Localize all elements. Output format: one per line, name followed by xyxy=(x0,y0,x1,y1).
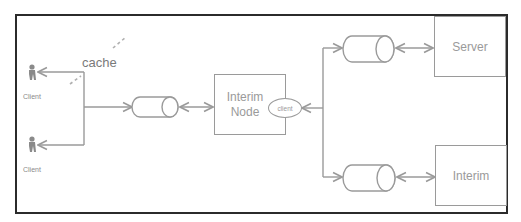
interim-node-client-oval: client xyxy=(268,98,302,118)
cache-dash-upper xyxy=(113,37,126,48)
cache-label: cache xyxy=(82,55,117,70)
interim-box: Interim xyxy=(435,145,507,206)
queue-cylinder-3 xyxy=(343,165,395,191)
client-label-bottom: Client xyxy=(23,166,41,173)
queue-cylinder-1 xyxy=(132,97,178,117)
left-junction-connector xyxy=(38,72,132,145)
server-box: Server xyxy=(434,16,506,77)
right-junction-connector xyxy=(302,48,342,177)
client-icon-top xyxy=(29,64,36,80)
interim-node-label-line1: Interim xyxy=(227,90,264,105)
client-icon-bottom xyxy=(29,136,36,152)
interim-node-label-line2: Node xyxy=(231,105,260,120)
cache-dash-lower xyxy=(70,76,81,84)
client-label-top: Client xyxy=(23,93,41,100)
queue-cylinder-2 xyxy=(343,36,394,62)
